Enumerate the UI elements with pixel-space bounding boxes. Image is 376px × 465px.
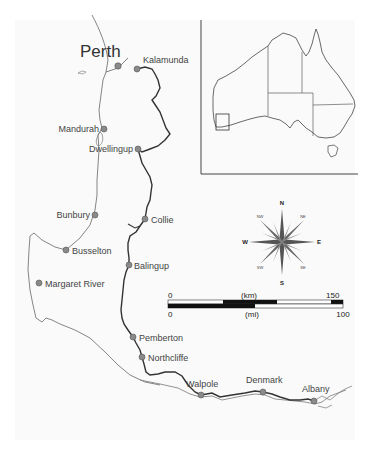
town-label: Collie: [151, 215, 174, 225]
scale-km-start: 0: [168, 291, 173, 300]
town-marker: [135, 146, 141, 152]
town-marker: [36, 280, 42, 286]
town-label: Northcliffe: [148, 353, 188, 363]
town-label: Dwellingup: [89, 144, 133, 154]
town-marker: [92, 212, 98, 218]
scale-km-unit: (km): [241, 291, 257, 300]
town-label: Kalamunda: [143, 55, 189, 65]
town-marker: [101, 126, 107, 132]
scale-mi-start: 0: [168, 310, 173, 319]
compass-northeast: NE: [300, 214, 306, 219]
town-marker: [139, 354, 145, 360]
town-label: Busselton: [72, 246, 112, 256]
compass-west: W: [242, 239, 248, 245]
compass-north: N: [280, 200, 284, 206]
scale-mi-end: 100: [336, 310, 350, 319]
compass-northwest: NW: [257, 214, 264, 219]
scale-km-end: 150: [326, 291, 340, 300]
map-figure: Perth Kalamunda Mandurah Dwellingup Bunb…: [0, 0, 376, 465]
scale-km-segment: [223, 300, 277, 304]
town-label: Albany: [302, 384, 330, 394]
town-marker: [134, 66, 140, 72]
scale-mi-unit: (mi): [245, 310, 259, 319]
town-label: Denmark: [246, 375, 283, 385]
town-label: Balingup: [134, 261, 169, 271]
town-label: Margaret River: [45, 279, 105, 289]
town-marker: [142, 216, 148, 222]
town-marker: [198, 392, 204, 398]
map-background: [15, 20, 355, 440]
compass-southeast: SE: [300, 265, 306, 270]
town-marker: [311, 398, 317, 404]
town-marker: [63, 247, 69, 253]
city-label-perth: Perth: [80, 42, 121, 61]
town-marker: [130, 334, 136, 340]
town-label: Bunbury: [56, 210, 90, 220]
town-marker: [126, 262, 132, 268]
compass-south: S: [280, 280, 284, 286]
compass-southwest: SW: [257, 265, 264, 270]
town-label: Walpole: [186, 379, 218, 389]
scale-km-segment: [331, 300, 343, 304]
compass-east: E: [317, 239, 321, 245]
scale-mi-segment: [168, 304, 255, 308]
town-marker: [260, 389, 266, 395]
town-margaret-river: Margaret River: [36, 279, 105, 289]
town-marker-perth: [115, 63, 121, 69]
town-label: Pemberton: [139, 333, 183, 343]
town-label: Mandurah: [58, 124, 99, 134]
